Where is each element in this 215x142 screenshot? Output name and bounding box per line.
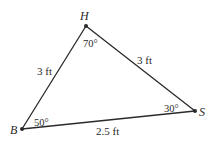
side-bh-length: 3 ft <box>37 65 52 77</box>
vertex-s-label: S <box>199 105 205 119</box>
angle-s-label: 30° <box>164 103 179 114</box>
side-bs-length: 2.5 ft <box>96 125 119 137</box>
vertex-b-dot <box>20 127 24 131</box>
vertex-h-dot <box>84 24 88 28</box>
vertex-h-label: H <box>79 9 90 23</box>
angle-b-label: 50° <box>34 117 49 128</box>
triangle-diagram: H B S 70° 50° 30° 3 ft 3 ft 2.5 ft <box>0 0 215 142</box>
vertex-b-label: B <box>10 123 18 137</box>
angle-h-label: 70° <box>83 38 98 49</box>
side-hs-length: 3 ft <box>137 54 152 66</box>
vertex-s-dot <box>193 109 197 113</box>
